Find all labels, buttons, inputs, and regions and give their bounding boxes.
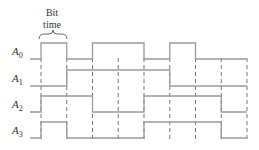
waveform-a2 — [30, 96, 247, 112]
signal-label-a3: A3 — [11, 124, 23, 139]
signal-labels: A0A1A2A3 — [11, 45, 23, 139]
waveform-a3 — [30, 122, 247, 138]
waveforms — [30, 43, 247, 138]
waveform-a0 — [30, 43, 247, 59]
bit-time-annotation: Bit time — [39, 7, 67, 39]
timing-diagram-svg: A0A1A2A3 Bit time — [0, 0, 259, 150]
bit-time-label-line1: Bit — [46, 7, 58, 18]
signal-label-a0: A0 — [11, 45, 23, 60]
timing-diagram: A0A1A2A3 Bit time — [0, 0, 259, 150]
signal-label-a2: A2 — [11, 98, 23, 113]
curly-brace-icon — [39, 30, 67, 39]
signal-label-a1: A1 — [11, 72, 23, 87]
waveform-a1 — [30, 70, 247, 86]
bit-time-label-line2: time — [43, 19, 61, 30]
